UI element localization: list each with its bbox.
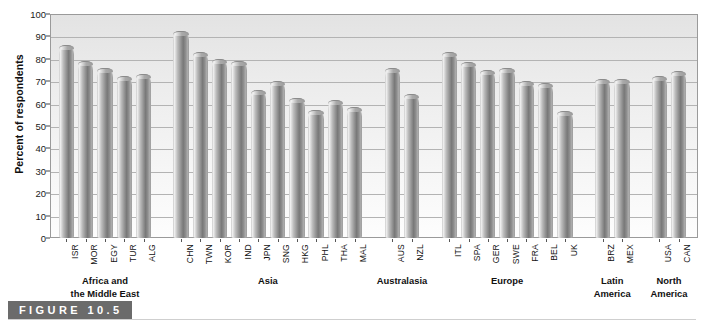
x-tick-label: AUS (396, 244, 406, 262)
bar (231, 61, 246, 238)
y-tick-label: 30 (6, 165, 46, 176)
bar (193, 52, 208, 238)
x-tick-label: JPN (262, 244, 272, 261)
x-tick-label: ISR (70, 244, 80, 259)
group-label-line: North (594, 275, 704, 288)
bar (614, 79, 629, 238)
x-tick-mark (526, 239, 527, 242)
x-tick-mark (659, 239, 660, 242)
x-tick-label: MEX (625, 244, 635, 263)
bar (671, 71, 686, 238)
x-tick-label: THA (339, 244, 349, 262)
bar (442, 52, 457, 238)
x-tick-mark (335, 239, 336, 242)
x-tick-label: HKG (300, 244, 310, 263)
x-tick-mark (546, 239, 547, 242)
y-tick-label: 0 (6, 233, 46, 244)
bar (519, 81, 534, 238)
bar (347, 107, 362, 238)
bar (251, 90, 266, 238)
x-tick-mark (392, 239, 393, 242)
x-tick-mark (258, 239, 259, 242)
bar (404, 94, 419, 238)
y-tick-label: 70 (6, 76, 46, 87)
bar (461, 62, 476, 238)
x-tick-label: MOR (89, 244, 99, 265)
x-tick-mark (412, 239, 413, 242)
y-tick-label: 10 (6, 210, 46, 221)
bar (173, 31, 188, 238)
x-tick-mark (565, 239, 566, 242)
bar (595, 79, 610, 238)
x-tick-label: ALG (147, 244, 157, 262)
caption-divider (8, 319, 696, 320)
x-tick-mark (622, 239, 623, 242)
bar (652, 76, 667, 238)
x-tick-mark (278, 239, 279, 242)
x-tick-mark (679, 239, 680, 242)
x-tick-mark (488, 239, 489, 242)
bar (78, 61, 93, 238)
x-tick-label: GER (491, 244, 501, 263)
bar (538, 83, 553, 238)
y-tick-label: 90 (6, 31, 46, 42)
group-label-line: America (594, 288, 704, 301)
bar (117, 76, 132, 238)
x-tick-label: FRA (530, 244, 540, 262)
bar (136, 74, 151, 238)
group-label: NorthAmerica (594, 275, 704, 300)
x-tick-label: SWE (511, 244, 521, 264)
group-label-line: Africa and (30, 275, 180, 288)
x-tick-label: ITL (453, 244, 463, 257)
x-tick-mark (603, 239, 604, 242)
bar (385, 68, 400, 238)
x-tick-label: IND (243, 244, 253, 259)
y-tick-label: 20 (6, 188, 46, 199)
x-tick-label: SNG (281, 244, 291, 263)
figure-caption-label: FIGURE 10.5 (8, 301, 132, 319)
x-tick-mark (124, 239, 125, 242)
x-tick-label: SPA (472, 244, 482, 261)
group-label-line: Asia (193, 275, 343, 288)
x-tick-mark (86, 239, 87, 242)
x-tick-mark (105, 239, 106, 242)
x-tick-label: TUR (128, 244, 138, 262)
group-label-line: the Middle East (30, 288, 180, 301)
x-tick-mark (66, 239, 67, 242)
figure-caption: FIGURE 10.5 (0, 301, 704, 323)
x-tick-label: NZL (415, 244, 425, 261)
x-tick-mark (355, 239, 356, 242)
bar-series (50, 14, 698, 238)
bar (289, 98, 304, 238)
group-label: Asia (193, 275, 343, 288)
x-tick-mark (181, 239, 182, 242)
y-tick-label: 100 (6, 9, 46, 20)
x-tick-mark (449, 239, 450, 242)
x-tick-label: BRZ (606, 244, 616, 262)
x-tick-label: USA (663, 244, 673, 262)
x-tick-label: BEL (549, 244, 559, 261)
x-tick-label: PHL (320, 244, 330, 261)
x-tick-label: CAN (682, 244, 692, 263)
x-tick-label: UK (569, 244, 579, 256)
y-tick-label: 40 (6, 143, 46, 154)
x-tick-mark (144, 239, 145, 242)
x-tick-mark (239, 239, 240, 242)
x-axis: ISRMOREGYTURALGCHNTWNKORINDJPNSNGHKGPHLT… (50, 239, 698, 273)
bar (308, 110, 323, 238)
bar (557, 111, 572, 238)
x-tick-mark (297, 239, 298, 242)
x-tick-mark (200, 239, 201, 242)
bar (212, 59, 227, 238)
bar (328, 100, 343, 238)
bar (480, 70, 495, 238)
y-tick-label: 80 (6, 53, 46, 64)
x-tick-mark (316, 239, 317, 242)
bar (97, 68, 112, 238)
y-tick-label: 60 (6, 98, 46, 109)
bar (270, 81, 285, 238)
x-tick-label: MAL (358, 244, 368, 262)
x-tick-label: KOR (223, 244, 233, 263)
x-tick-mark (507, 239, 508, 242)
x-tick-label: TWN (204, 244, 214, 264)
